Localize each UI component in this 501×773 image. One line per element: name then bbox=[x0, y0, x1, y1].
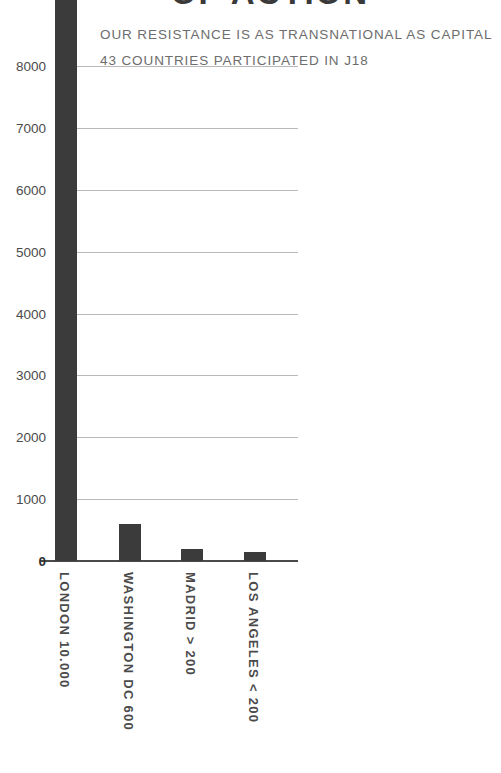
gridline bbox=[55, 128, 298, 129]
y-axis-tick-label: 7000 bbox=[0, 120, 46, 135]
gridline bbox=[55, 66, 298, 67]
y-axis-tick-label: 2000 bbox=[0, 430, 46, 445]
bar bbox=[244, 552, 266, 561]
bar bbox=[55, 0, 77, 561]
y-axis-tick-label: 0 bbox=[0, 554, 46, 569]
gridline bbox=[55, 375, 298, 376]
plot-area: 010002000300040005000600070008000LONDON … bbox=[0, 0, 501, 773]
y-axis-tick-label: 8000 bbox=[0, 59, 46, 74]
y-axis-tick-label: 1000 bbox=[0, 492, 46, 507]
y-axis-tick-label: 5000 bbox=[0, 244, 46, 259]
gridline bbox=[55, 252, 298, 253]
x-axis-tick-label: MADRID > 200 bbox=[183, 572, 198, 676]
x-axis-tick-label: WASHINGTON DC 600 bbox=[121, 572, 136, 731]
x-axis-tick-label: LONDON 10.000 bbox=[57, 572, 72, 689]
gridline bbox=[55, 499, 298, 500]
chart-figure: OF ACTION OUR RESISTANCE IS AS TRANSNATI… bbox=[0, 0, 501, 773]
gridline bbox=[55, 190, 298, 191]
x-axis-tick-label: LOS ANGELES < 200 bbox=[246, 572, 261, 723]
y-axis-tick-label: 4000 bbox=[0, 306, 46, 321]
y-axis-tick-label: 3000 bbox=[0, 368, 46, 383]
bar bbox=[119, 524, 141, 561]
y-axis-tick-label: 6000 bbox=[0, 182, 46, 197]
gridline bbox=[55, 437, 298, 438]
bar bbox=[181, 549, 203, 561]
gridline bbox=[55, 314, 298, 315]
